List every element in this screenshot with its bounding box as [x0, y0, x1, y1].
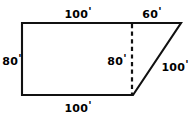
- label-top-right-value: 60: [142, 8, 158, 21]
- prime-icon: ': [18, 52, 21, 65]
- label-slant-side: 100': [161, 59, 188, 74]
- label-inner-height: 80': [107, 53, 126, 68]
- label-inner-value: 80: [107, 55, 123, 68]
- prime-icon: ': [88, 99, 91, 112]
- label-top-left-side: 100': [64, 6, 91, 21]
- label-bottom-value: 100: [64, 102, 88, 115]
- label-left-side: 80': [2, 53, 21, 68]
- label-top-left-value: 100: [64, 8, 88, 21]
- prime-icon: ': [158, 5, 161, 18]
- geometry-figure: 100' 60' 80' 80' 100' 100': [0, 0, 192, 119]
- prime-icon: ': [185, 58, 188, 71]
- label-slant-value: 100: [161, 61, 185, 74]
- quadrilateral-outline: [22, 23, 181, 95]
- label-top-right-side: 60': [142, 6, 161, 21]
- prime-icon: ': [88, 5, 91, 18]
- label-bottom-side: 100': [64, 100, 91, 115]
- prime-icon: ': [123, 52, 126, 65]
- label-left-value: 80: [2, 55, 18, 68]
